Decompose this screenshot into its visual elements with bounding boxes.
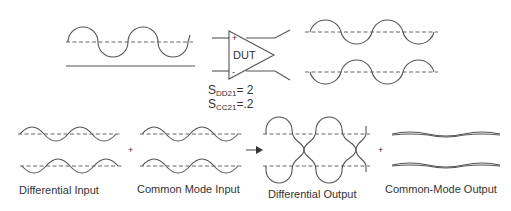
differential-input-label: Differential Input (19, 184, 99, 196)
common-mode-input-label: Common Mode Input (137, 183, 240, 195)
diagram-canvas (0, 0, 511, 211)
input-signal (66, 27, 195, 66)
plus-terminal-label: + (232, 33, 237, 43)
scc21-param: SCC21=.2 (208, 97, 253, 115)
common-mode-input-waves (140, 127, 244, 173)
plus-operator-2: + (378, 145, 383, 155)
plus-operator-1: + (128, 145, 133, 155)
differential-output-waves (263, 117, 370, 183)
arrow-icon (246, 146, 263, 154)
common-mode-output-label: Common-Mode Output (385, 183, 497, 195)
common-mode-output-waves (392, 132, 500, 168)
differential-input-waves (18, 127, 122, 173)
dut-label: DUT (233, 49, 256, 61)
minus-terminal-label: - (232, 67, 235, 77)
output-signals (305, 20, 438, 84)
differential-output-label: Differential Output (268, 188, 356, 200)
